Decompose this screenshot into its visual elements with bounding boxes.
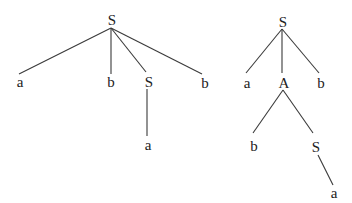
edge-R-S-R-a xyxy=(246,29,282,73)
node-R-A: A xyxy=(279,76,290,91)
node-R-a: a xyxy=(244,76,251,91)
node-L-S: S xyxy=(108,13,116,28)
edge-R-A-R-b2 xyxy=(253,90,283,133)
node-R-S: S xyxy=(279,15,287,30)
node-L-a: a xyxy=(17,75,24,90)
edge-R-S2-R-a2 xyxy=(318,155,333,185)
tree-edges xyxy=(0,0,352,203)
node-L-S2: S xyxy=(145,75,153,90)
edge-R-S-R-b xyxy=(282,29,319,73)
node-L-b1: b xyxy=(107,75,115,90)
node-R-S2: S xyxy=(312,140,320,155)
node-L-a2: a xyxy=(145,138,152,153)
edge-L-S-L-b2 xyxy=(111,28,202,74)
node-R-b: b xyxy=(317,76,325,91)
edge-L-S-L-S2 xyxy=(111,28,146,72)
node-R-b2: b xyxy=(250,139,258,154)
edge-R-A-R-S2 xyxy=(283,90,313,133)
edge-L-S-L-a xyxy=(19,28,111,74)
node-R-a2: a xyxy=(331,186,338,201)
node-L-b2: b xyxy=(201,76,209,91)
